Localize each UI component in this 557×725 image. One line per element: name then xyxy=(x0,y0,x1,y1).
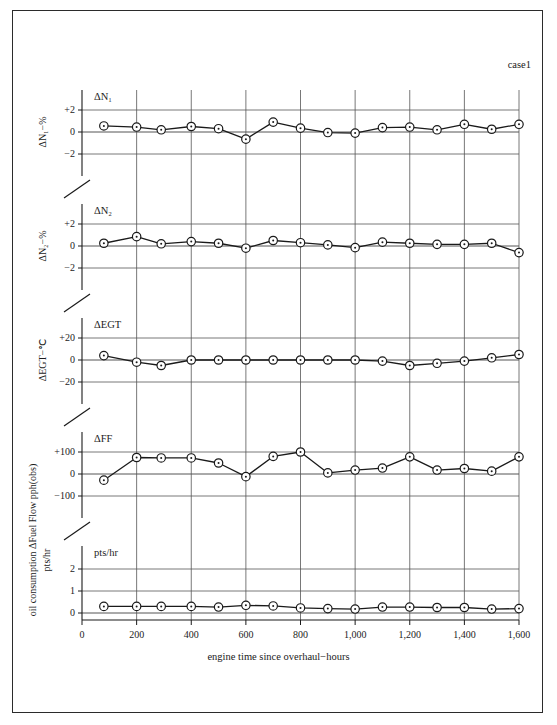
data-point-marker xyxy=(187,602,195,610)
data-point-marker xyxy=(378,464,386,472)
x-axis-title: engine time since overhaul−hours xyxy=(0,652,557,663)
data-point-marker xyxy=(324,469,332,477)
data-point-marker xyxy=(132,123,140,131)
data-point-marker xyxy=(351,466,359,474)
data-point-marker xyxy=(515,120,523,128)
data-point-marker xyxy=(296,448,304,456)
data-point-marker xyxy=(406,239,414,247)
data-point-marker xyxy=(296,124,304,132)
data-point-marker xyxy=(132,358,140,366)
data-point-marker xyxy=(100,476,108,484)
panel-tag-0: ΔN₁ xyxy=(94,92,112,103)
data-point-marker xyxy=(214,239,222,247)
data-point-marker xyxy=(433,466,441,474)
data-point-marker xyxy=(487,467,495,475)
data-point-marker xyxy=(460,603,468,611)
data-point-marker xyxy=(406,361,414,369)
data-point-marker xyxy=(324,128,332,136)
data-point-marker xyxy=(157,361,165,369)
data-point-marker xyxy=(460,120,468,128)
series-line-panel-4 xyxy=(104,605,519,609)
data-point-marker xyxy=(214,356,222,364)
data-point-marker xyxy=(487,354,495,362)
y-tick-label-p0-2: −2 xyxy=(0,149,75,159)
data-point-marker xyxy=(324,241,332,249)
series-line-panel-1 xyxy=(104,237,519,253)
y-axis-title-p2: ΔEGT−℃ xyxy=(38,339,48,382)
panel-tag-3: ΔFF xyxy=(94,434,112,445)
data-point-marker xyxy=(351,243,359,251)
data-point-marker xyxy=(214,125,222,133)
data-point-marker xyxy=(433,240,441,248)
y-tick-label-p1-0: +2 xyxy=(0,219,75,229)
x-tick-label-4: 800 xyxy=(277,630,325,640)
data-point-marker xyxy=(433,359,441,367)
data-point-marker xyxy=(157,240,165,248)
y-axis-title-p0: ΔN₁−% xyxy=(38,116,48,147)
x-tick-label-5: 1,000 xyxy=(331,630,379,640)
data-point-marker xyxy=(242,356,250,364)
y-tick-label-p0-0: +2 xyxy=(0,105,75,115)
data-point-marker xyxy=(187,356,195,364)
chart-canvas xyxy=(0,0,557,725)
data-point-marker xyxy=(324,604,332,612)
series-line-panel-3 xyxy=(104,452,519,480)
data-series-group xyxy=(100,118,524,613)
data-point-marker xyxy=(242,135,250,143)
data-point-marker xyxy=(378,123,386,131)
data-point-marker xyxy=(100,239,108,247)
data-point-marker xyxy=(460,357,468,365)
y-axis-title-p1: ΔN₂−% xyxy=(38,230,48,261)
data-point-marker xyxy=(269,602,277,610)
data-point-marker xyxy=(132,602,140,610)
data-point-marker xyxy=(378,603,386,611)
data-point-marker xyxy=(515,350,523,358)
data-point-marker xyxy=(296,604,304,612)
data-point-marker xyxy=(269,236,277,244)
data-point-marker xyxy=(214,459,222,467)
data-point-marker xyxy=(157,602,165,610)
data-point-marker xyxy=(460,240,468,248)
y-tick-label-p3-0: +100 xyxy=(0,447,75,457)
data-point-marker xyxy=(378,238,386,246)
data-point-marker xyxy=(242,601,250,609)
x-tick-label-8: 1,600 xyxy=(495,630,543,640)
data-point-marker xyxy=(378,357,386,365)
x-tick-label-2: 400 xyxy=(167,630,215,640)
data-point-marker xyxy=(269,118,277,126)
data-point-marker xyxy=(351,605,359,613)
data-point-marker xyxy=(515,248,523,256)
data-point-marker xyxy=(214,603,222,611)
panel-tag-1: ΔN₂ xyxy=(94,206,112,217)
data-point-marker xyxy=(433,126,441,134)
y-axis-title-p3: oil consumption ΔFuel Flow pph(obs) xyxy=(28,464,38,617)
data-point-marker xyxy=(324,356,332,364)
data-point-marker xyxy=(515,453,523,461)
data-point-marker xyxy=(187,454,195,462)
data-point-marker xyxy=(296,356,304,364)
x-tick-label-7: 1,400 xyxy=(440,630,488,640)
data-point-marker xyxy=(406,123,414,131)
data-point-marker xyxy=(242,244,250,252)
data-point-marker xyxy=(351,356,359,364)
panel-tag-4: pts/hr xyxy=(94,548,118,559)
case-label: case1 xyxy=(508,60,531,71)
y-tick-label-p1-2: −2 xyxy=(0,263,75,273)
data-point-marker xyxy=(100,122,108,130)
data-point-marker xyxy=(487,605,495,613)
data-point-marker xyxy=(132,232,140,240)
x-tick-label-3: 600 xyxy=(222,630,270,640)
data-point-marker xyxy=(100,602,108,610)
series-line-panel-0 xyxy=(104,122,519,139)
x-tick-label-6: 1,200 xyxy=(386,630,434,640)
data-point-marker xyxy=(406,453,414,461)
data-point-marker xyxy=(460,464,468,472)
data-point-marker xyxy=(100,351,108,359)
data-point-marker xyxy=(242,472,250,480)
data-point-marker xyxy=(487,125,495,133)
data-point-marker xyxy=(157,454,165,462)
data-point-marker xyxy=(296,239,304,247)
data-point-marker xyxy=(187,122,195,130)
data-point-marker xyxy=(269,356,277,364)
data-point-marker xyxy=(515,604,523,612)
